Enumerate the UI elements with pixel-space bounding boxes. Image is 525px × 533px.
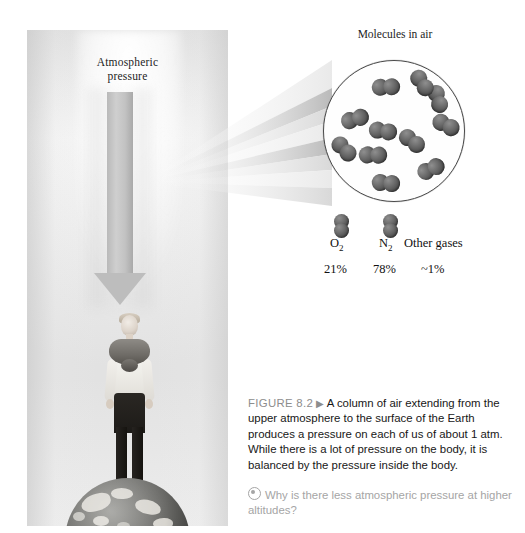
down-arrow-icon — [107, 92, 133, 276]
person-leg-left — [116, 427, 127, 485]
person-head — [121, 315, 138, 336]
molecules-in-air-title: Molecules in air — [300, 28, 490, 40]
air-molecule — [430, 112, 462, 137]
caption-triangle-icon: ▶ — [316, 398, 324, 409]
figure-question: Why is there less atmospheric pressure a… — [248, 487, 514, 519]
percent-n2: 78% — [373, 262, 396, 277]
circled-dot-icon — [248, 487, 261, 500]
gas-legend-labels: O2 N2 Other gases — [300, 236, 500, 256]
person-sweater-knot — [121, 359, 138, 372]
legend-label-n2: N2 — [379, 236, 393, 253]
down-arrow-head-icon — [94, 273, 146, 305]
air-molecule — [357, 142, 389, 168]
percent-o2: 21% — [324, 262, 347, 277]
person-leg-right — [132, 427, 143, 485]
legend-label-o2: O2 — [330, 236, 344, 253]
person-figure — [101, 315, 159, 493]
figure-container: Atmospheric pressure — [0, 0, 525, 533]
air-molecule — [338, 103, 372, 135]
air-molecule — [370, 171, 401, 196]
air-molecule — [414, 152, 448, 185]
figure-caption: FIGURE 8.2 ▶ A column of air extending f… — [248, 396, 514, 473]
molecule-magnified-view — [323, 60, 465, 202]
atom — [382, 174, 402, 194]
legend-molecule-o2-icon — [334, 214, 350, 238]
atom — [441, 118, 461, 138]
legend-molecule-n2-icon — [383, 214, 399, 238]
percent-other-gases: ~1% — [421, 262, 444, 277]
legend-label-other-gases: Other gases — [404, 236, 463, 251]
person-hand-right — [145, 399, 153, 409]
figure-number: FIGURE 8.2 — [248, 397, 313, 409]
air-molecule — [327, 133, 361, 164]
air-molecule — [370, 73, 403, 101]
person-hand-left — [106, 399, 114, 409]
air-molecule — [368, 120, 398, 143]
magnification-cone — [140, 58, 340, 208]
atom — [379, 123, 398, 142]
air-molecule — [395, 126, 428, 155]
question-text: Why is there less atmospheric pressure a… — [248, 489, 512, 516]
gas-percentages: 21% 78% ~1% — [300, 262, 500, 282]
